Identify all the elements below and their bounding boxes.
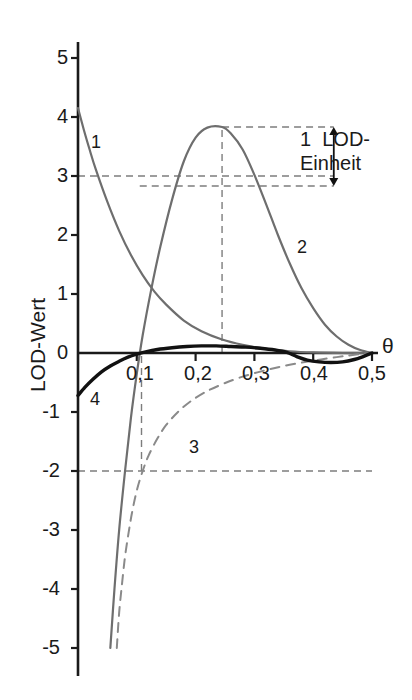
curve-label-3: 3 (189, 437, 199, 458)
reference-lines-group (78, 127, 372, 471)
y-tick-label: 3 (38, 164, 68, 188)
curve-label-2: 2 (297, 237, 307, 258)
lod-score-chart: 5 4 3 2 1 0 -1 -2 -3 -4 -5 0,1 0,2 0,3 0… (0, 0, 412, 700)
y-tick-label: 5 (38, 46, 68, 70)
x-tick-label: 0,1 (117, 362, 163, 386)
y-tick-label: -3 (30, 518, 60, 542)
curve-3 (117, 353, 372, 648)
lod-unit-annotation-line1: 1 LOD- (300, 127, 370, 151)
y-tick-label: 4 (38, 105, 68, 129)
x-tick-label: 0,3 (233, 362, 279, 386)
y-tick-label: -5 (30, 636, 60, 660)
x-axis-title: θ (382, 334, 394, 359)
curve-label-4: 4 (90, 389, 100, 410)
y-tick-label: 2 (38, 223, 68, 247)
curve-2 (110, 126, 372, 648)
lod-unit-annotation-line2: Einheit (300, 151, 361, 175)
x-tick-label: 0,5 (349, 362, 395, 386)
y-tick-label: -4 (30, 577, 60, 601)
y-tick-label: -2 (30, 459, 60, 483)
x-tick-label: 0,2 (175, 362, 221, 386)
curve-label-1: 1 (91, 132, 101, 153)
y-axis-title: LOD-Wert (26, 285, 50, 405)
x-tick-label: 0,4 (291, 362, 337, 386)
lod-unit-arrow-head (329, 178, 338, 186)
